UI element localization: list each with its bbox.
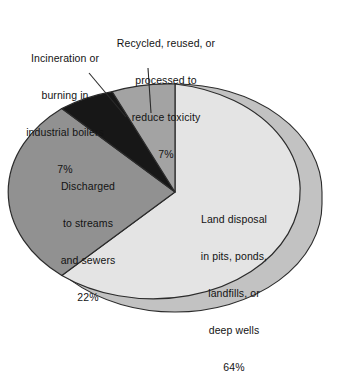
- slice-label-land-disposal-line4: deep wells: [175, 324, 293, 336]
- slice-label-land-disposal-percent: 64%: [175, 361, 293, 373]
- slice-label-land-disposal-line2: in pits, ponds,: [175, 250, 293, 262]
- slice-label-recycled-line1: Recycled, reused, or: [98, 37, 234, 49]
- slice-label-land-disposal-line3: landfills, or: [175, 287, 293, 299]
- slice-label-discharged: Discharged to streams and sewers 22%: [36, 155, 140, 328]
- slice-label-discharged-line2: to streams: [36, 217, 140, 229]
- slice-label-discharged-line1: Discharged: [36, 180, 140, 192]
- slice-label-discharged-line3: and sewers: [36, 254, 140, 266]
- slice-label-land-disposal: Land disposal in pits, ponds, landfills,…: [175, 188, 293, 375]
- slice-label-discharged-percent: 22%: [36, 291, 140, 303]
- slice-label-land-disposal-line1: Land disposal: [175, 213, 293, 225]
- slice-label-recycled-line2: processed to: [98, 74, 234, 86]
- slice-label-recycled-line3: reduce toxicity: [98, 111, 234, 123]
